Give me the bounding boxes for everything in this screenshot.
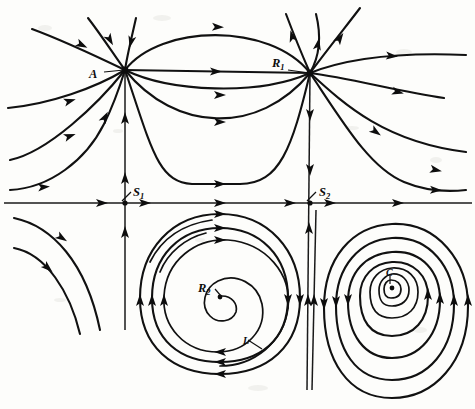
leader-S1 bbox=[122, 192, 131, 201]
center-arrows bbox=[320, 288, 472, 310]
label-center-C: C bbox=[386, 267, 393, 278]
center-point-C bbox=[390, 286, 395, 291]
center-region bbox=[324, 224, 468, 398]
leader-L bbox=[248, 340, 262, 349]
label-saddle-S1: S1 bbox=[133, 185, 144, 201]
leader-R2 bbox=[215, 289, 221, 296]
label-attractor-A: A bbox=[88, 67, 97, 81]
phase-portrait-canvas: A R1 S1 S2 R2 L C bbox=[0, 0, 475, 409]
lower-left-flow bbox=[14, 218, 100, 334]
upper-flow-lines bbox=[8, 8, 466, 191]
label-repeller-R1: R1 bbox=[271, 56, 285, 72]
label-repeller-R2: R2 bbox=[197, 281, 211, 297]
lower-left-arrows bbox=[41, 231, 69, 275]
fixed-point-S2 bbox=[307, 200, 312, 205]
phase-portrait-figure: A R1 S1 S2 R2 L C bbox=[0, 0, 475, 409]
fixed-point-S1 bbox=[122, 200, 127, 205]
label-limit-cycle-L: L bbox=[242, 335, 249, 346]
label-saddle-S2: S2 bbox=[319, 185, 331, 201]
